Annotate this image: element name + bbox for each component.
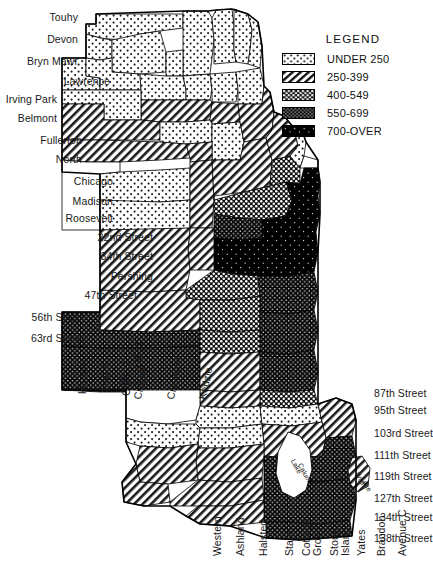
street-label-87th-street: 87th Street — [374, 388, 426, 399]
street-label-111th-street: 111th Street — [374, 450, 431, 461]
legend-label-700-over: 700-OVER — [327, 125, 382, 137]
street-label-nagle: Nagle — [98, 363, 110, 391]
street-label-ashland: Ashland — [234, 517, 246, 556]
legend-label-400-549: 400-549 — [327, 89, 369, 101]
legend: LEGEND UNDER 250 250-399 400-549 550-699 — [282, 33, 418, 142]
legend-row-250-399: 250-399 — [282, 70, 418, 83]
street-label-madison: Madison — [73, 196, 113, 207]
street-label-chicago: Chicago — [74, 176, 113, 187]
legend-row-550-699: 550-699 — [282, 106, 418, 119]
legend-row-under-250: UNDER 250 — [282, 52, 418, 65]
street-label-avenue-c: Avenue C — [396, 509, 408, 556]
legend-swatch-under-250 — [282, 53, 315, 65]
street-label-roosevelt: Roosevelt — [65, 213, 113, 224]
street-label-47th-street: 47th Street — [85, 290, 137, 301]
legend-label-550-699: 550-699 — [327, 107, 369, 119]
street-label-56th-street: 56th Street — [32, 312, 84, 323]
street-label-34th-street: 34th Street — [101, 251, 153, 262]
street-label-western: Western — [211, 516, 223, 556]
legend-label-under-250: UNDER 250 — [327, 53, 389, 65]
street-label-grove: Grove — [311, 527, 323, 556]
street-label-bryn-mawr: Bryn Mawr — [27, 56, 78, 67]
street-label-north: North — [56, 154, 82, 165]
street-label-state: State — [283, 531, 295, 556]
street-label-st: St — [133, 353, 143, 364]
street-label-yates: Yates — [355, 529, 367, 556]
street-label-devon: Devon — [47, 34, 78, 45]
legend-swatch-250-399 — [282, 71, 315, 83]
street-label-brandon: Brandon — [375, 516, 387, 556]
legend-swatch-700-over — [282, 125, 315, 137]
street-label-island: Island — [339, 527, 351, 556]
legend-label-250-399: 250-399 — [327, 71, 369, 83]
legend-swatch-400-549 — [282, 89, 315, 101]
street-label-95th-street: 95th Street — [374, 405, 426, 416]
legend-row-400-549: 400-549 — [282, 88, 418, 101]
legend-swatch-550-699 — [282, 107, 315, 119]
street-label-63rd-street: 63rd Street — [31, 333, 84, 344]
street-label-22nd-street: 22nd Street — [98, 232, 153, 243]
street-label-belmont: Belmont — [18, 113, 57, 124]
legend-title: LEGEND — [288, 33, 418, 45]
street-label-touhy: Touhy — [49, 12, 78, 23]
street-label-103rd-street: 103rd Street — [374, 428, 433, 439]
street-label-irving-park: Irving Park — [6, 94, 57, 105]
street-label-lawrence: Lawrence — [64, 76, 110, 87]
street-label-fullerton: Fullerton — [40, 135, 82, 146]
street-label-119th-street: 119th Street — [374, 471, 432, 482]
street-label-halsted: Halsted — [257, 520, 269, 556]
street-label-127th-street: 127th Street — [374, 493, 432, 504]
street-label-harlem: Harlem — [76, 360, 88, 394]
legend-row-700-over: 700-OVER — [282, 124, 418, 137]
street-label-pershing: Pershing — [111, 271, 153, 282]
